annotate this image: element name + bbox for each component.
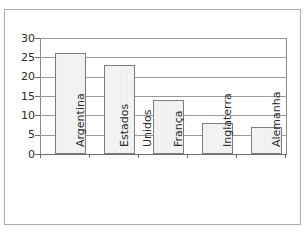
category-label-line: Alemanha [270,92,283,148]
y-axis-tick-label: 25 [7,52,35,63]
y-axis-tick-label: 20 [7,71,35,82]
y-axis-tick-label: 5 [7,129,35,140]
y-axis-labels: 30 25 20 15 10 5 0 [6,0,35,235]
y-axis-tick-mark [35,135,40,136]
y-axis-tick-label: 10 [7,110,35,121]
bar-chart: 30 25 20 15 10 5 0 [0,0,307,235]
y-axis-tick-label: 15 [7,91,35,102]
x-axis-tick-mark [40,154,41,158]
x-axis-category-label-argentina: Argentina [63,93,98,161]
category-label-line: Argentina [74,93,87,147]
y-axis-tick-mark [35,115,40,116]
category-label-line: Inglaterra [221,93,234,147]
y-axis-tick-mark [35,57,40,58]
y-axis-tick-mark [35,38,40,39]
category-label-line: França [172,110,185,147]
y-axis-tick-label: 0 [7,149,35,160]
gridline-30 [40,38,287,39]
x-axis-category-label-inglaterra: Inglaterra [210,93,245,161]
category-label-line: Unidos [141,109,154,147]
y-axis-tick-label: 30 [7,33,35,44]
category-label-line: Estados [118,104,131,147]
x-axis-category-label-franca: França [161,110,196,161]
x-axis-category-label-estados-unidos: Estados Unidos [107,104,165,161]
x-axis-category-label-alemanha: Alemanha [259,92,294,162]
y-axis-tick-mark [35,96,40,97]
y-axis-tick-mark [35,77,40,78]
